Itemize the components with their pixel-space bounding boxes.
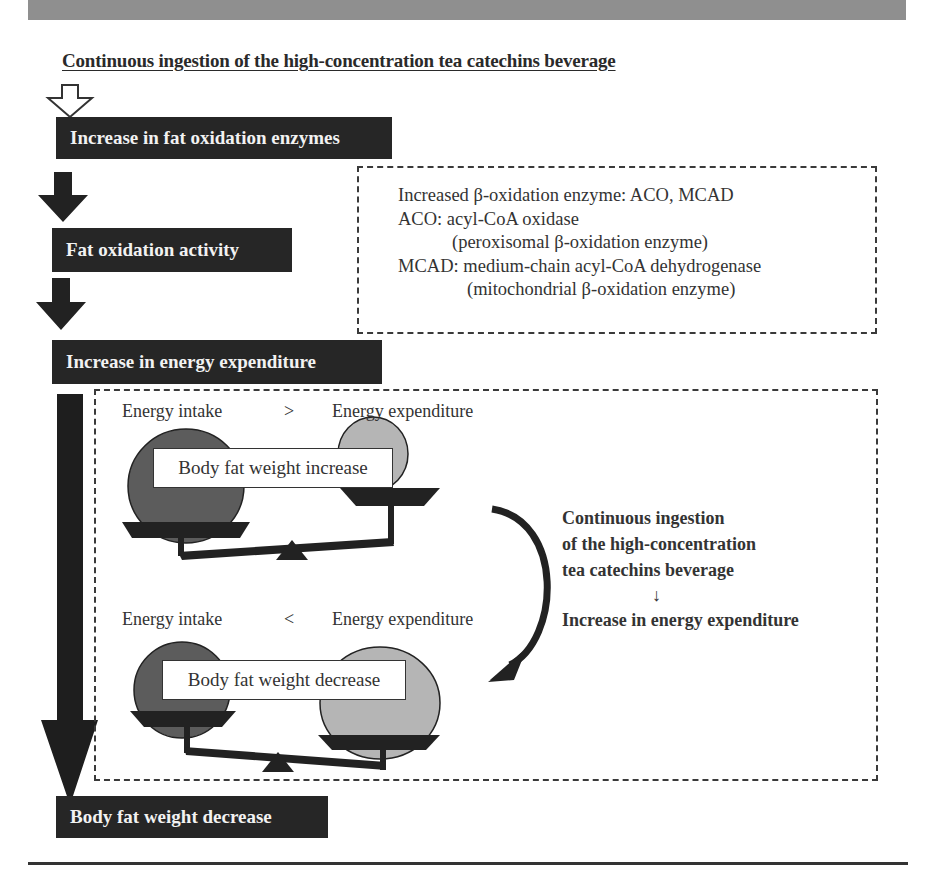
result-label-increase: Body fat weight increase bbox=[153, 448, 393, 488]
step-label: Fat oxidation activity bbox=[66, 239, 239, 261]
side-note-result: Increase in energy expenditure bbox=[562, 610, 799, 631]
long-down-arrow-icon bbox=[41, 394, 98, 805]
energy-expenditure-label: Energy expenditure bbox=[332, 609, 473, 630]
energy-intake-label: Energy intake bbox=[122, 401, 222, 422]
result-label-decrease: Body fat weight decrease bbox=[162, 660, 406, 700]
hollow-down-arrow-icon bbox=[48, 85, 92, 117]
step-label: Body fat weight decrease bbox=[70, 806, 272, 828]
energy-expenditure-label: Energy expenditure bbox=[332, 401, 473, 422]
energy-intake-label: Energy intake bbox=[122, 609, 222, 630]
step-box-fat-oxidation-activity: Fat oxidation activity bbox=[52, 228, 292, 272]
comparison-operator: < bbox=[284, 609, 294, 630]
side-note-line: Continuous ingestion bbox=[562, 505, 756, 531]
step-label: Increase in fat oxidation enzymes bbox=[70, 127, 340, 149]
down-arrow-icon bbox=[36, 278, 86, 330]
enzyme-note-line: ACO: acyl-CoA oxidase bbox=[398, 208, 761, 232]
enzyme-note-line: (peroxisomal β-oxidation enzyme) bbox=[398, 231, 761, 255]
bottom-rule bbox=[28, 862, 908, 865]
comparison-operator: > bbox=[284, 401, 294, 422]
enzyme-note-line: (mitochondrial β-oxidation enzyme) bbox=[398, 278, 761, 302]
step-box-fat-oxidation-enzymes: Increase in fat oxidation enzymes bbox=[56, 117, 392, 159]
step-label: Increase in energy expenditure bbox=[66, 351, 316, 373]
side-note-line: tea catechins beverage bbox=[562, 557, 756, 583]
side-note-line: of the high-concentration bbox=[562, 531, 756, 557]
step-box-energy-expenditure: Increase in energy expenditure bbox=[52, 340, 382, 384]
side-note: Continuous ingestion of the high-concent… bbox=[562, 505, 756, 583]
result-text: Body fat weight increase bbox=[178, 457, 367, 479]
small-down-arrow-icon: ↓ bbox=[652, 585, 661, 606]
result-text: Body fat weight decrease bbox=[188, 669, 381, 691]
enzyme-note: Increased β-oxidation enzyme: ACO, MCAD … bbox=[398, 184, 761, 302]
step-box-body-fat-decrease: Body fat weight decrease bbox=[56, 796, 328, 838]
down-arrow-icon bbox=[38, 172, 88, 222]
enzyme-note-line: Increased β-oxidation enzyme: ACO, MCAD bbox=[398, 184, 761, 208]
enzyme-note-line: MCAD: medium-chain acyl-CoA dehydrogenas… bbox=[398, 255, 761, 279]
